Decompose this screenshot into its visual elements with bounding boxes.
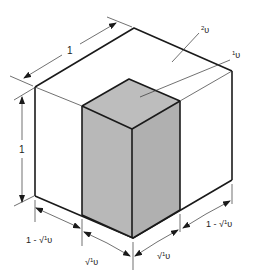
dimension-bottom-left-outer: 1 - √1υ — [26, 208, 80, 245]
label-height: 1 — [19, 144, 25, 155]
label-outer-region: 2υ — [201, 25, 209, 35]
cube-diagram: 2υ 1υ 1 1 1 - √1υ √1υ — [0, 0, 253, 277]
label-bottom-right-inner: √1υ — [157, 251, 170, 261]
inner-prism — [82, 79, 180, 238]
label-top-depth: 1 — [67, 45, 73, 56]
label-inner-region: 1υ — [232, 50, 240, 60]
label-bottom-left-inner: √1υ — [85, 257, 98, 267]
label-bottom-left-outer: 1 - √1υ — [26, 235, 52, 245]
dimension-height: 1 — [14, 88, 34, 206]
dimension-bottom-right-inner: √1υ — [135, 230, 178, 261]
label-bottom-right-outer: 1 - √1υ — [206, 219, 232, 229]
dimension-bottom-left-inner: √1υ — [84, 232, 130, 267]
